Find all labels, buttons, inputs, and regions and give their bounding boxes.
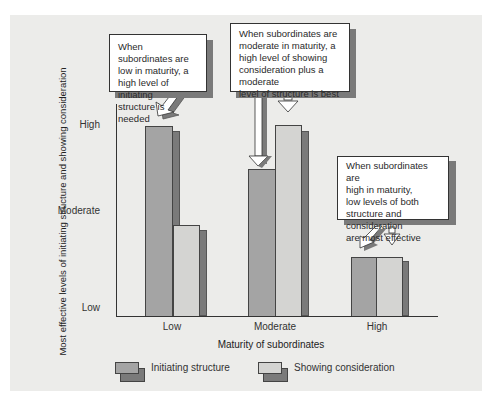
callout-line: When subordinates are bbox=[346, 160, 440, 184]
callout-line: level of structure is best bbox=[239, 88, 341, 100]
callout-line: low in maturity, a bbox=[118, 65, 198, 77]
legend-swatch-initiating bbox=[115, 362, 145, 382]
legend-item-initiating-structure: Initiating structure bbox=[115, 362, 230, 382]
callout-line: moderate in maturity, a bbox=[239, 40, 341, 52]
legend-label: Showing consideration bbox=[294, 362, 395, 373]
callout-line: high level of showing bbox=[239, 52, 341, 64]
arrow-down-icon bbox=[249, 88, 272, 168]
callout-line: low levels of both bbox=[346, 196, 440, 208]
callout-line: high level of initiating bbox=[118, 77, 198, 101]
callout-line: consideration plus a moderate bbox=[239, 64, 341, 88]
callout-line: When subordinates are bbox=[239, 28, 341, 40]
callout-line: structure is needed bbox=[118, 101, 198, 125]
callout-line: When subordinates are bbox=[118, 41, 198, 65]
legend-swatch-consideration bbox=[258, 362, 288, 382]
callout-line: are most effective bbox=[346, 232, 440, 244]
callout-low-maturity: When subordinates are low in maturity, a… bbox=[109, 34, 207, 92]
callout-moderate-maturity: When subordinates are moderate in maturi… bbox=[230, 23, 350, 92]
callout-line: high in maturity, bbox=[346, 184, 440, 196]
callout-high-maturity: When subordinates are high in maturity, … bbox=[337, 156, 449, 220]
legend-item-showing-consideration: Showing consideration bbox=[258, 362, 395, 382]
callout-line: structure and consideration bbox=[346, 208, 440, 232]
legend-label: Initiating structure bbox=[151, 362, 230, 373]
